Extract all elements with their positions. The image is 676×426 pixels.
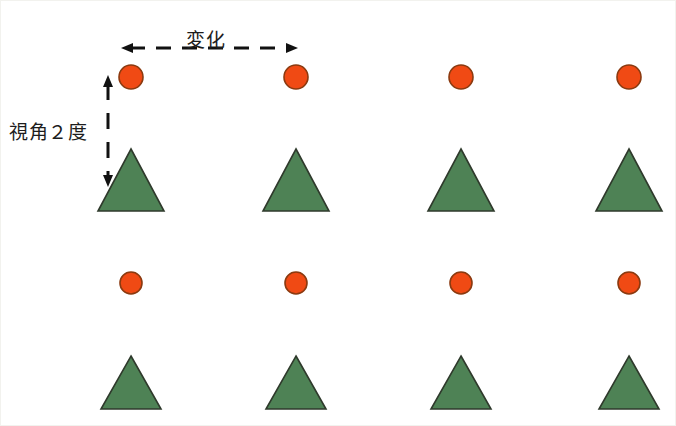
orange-circle-r1-c2 (450, 272, 472, 294)
horizontal-arrow-label: 変化 (186, 25, 225, 52)
green-triangle-r0-c1 (263, 149, 329, 211)
orange-circle-r0-c0 (119, 65, 143, 89)
orange-circle-r1-c1 (285, 272, 307, 294)
orange-circle-r0-c2 (449, 65, 473, 89)
orange-circle-r0-c1 (284, 65, 308, 89)
vertical-arrow-label: 視角２度 (9, 117, 87, 144)
green-triangle-r0-c2 (428, 149, 494, 211)
orange-circle-r0-c3 (617, 65, 641, 89)
green-triangle-r1-c1 (266, 356, 326, 409)
green-triangle-r1-c3 (599, 356, 659, 409)
green-triangle-r1-c0 (101, 356, 161, 409)
stimulus-layer (1, 1, 676, 426)
green-triangle-r0-c3 (596, 149, 662, 211)
horizontal-arrowhead-left (121, 43, 133, 53)
green-triangle-r1-c2 (431, 356, 491, 409)
vertical-arrowhead-top (103, 75, 113, 87)
orange-circle-r1-c3 (618, 272, 640, 294)
orange-circle-r1-c0 (120, 272, 142, 294)
horizontal-arrowhead-right (286, 43, 298, 53)
shapes-group (98, 65, 662, 409)
stimulus-figure-canvas: 変化 視角２度 (0, 0, 676, 426)
